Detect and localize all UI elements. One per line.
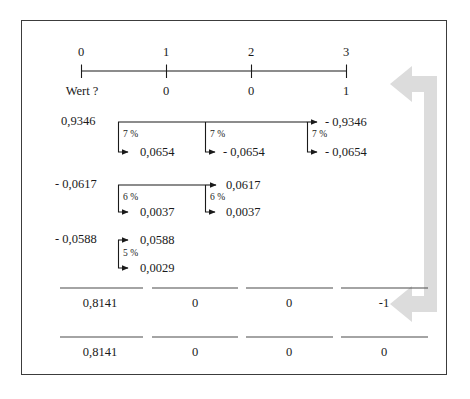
row3-rate-1: 5 % (123, 248, 138, 258)
row2-rate-2: 6 % (210, 192, 225, 202)
row1-start-value: 0,9346 (61, 115, 95, 128)
row1-branch-value-3: - 0,0654 (325, 146, 367, 159)
subtotal-cell-3: -1 (379, 297, 389, 310)
row3-branch-value-1: 0,0029 (140, 262, 174, 275)
axis-tick-label-2: 2 (248, 46, 254, 59)
axis-value-0: Wert ? (66, 85, 99, 98)
total-cell-0: 0,8141 (83, 346, 117, 359)
row1-spine-end-value: - 0,9346 (325, 116, 367, 129)
subtotal-cell-1: 0 (192, 297, 198, 310)
figure-root: 0 1 2 3 Wert ? 0 0 1 0,9346 7 % 7 % 7 % … (0, 0, 470, 399)
row1-rate-3: 7 % (312, 129, 327, 139)
axis-value-3: 1 (343, 85, 349, 98)
row2-start-value: - 0,0617 (55, 178, 97, 191)
row2-rate-1: 6 % (123, 192, 138, 202)
total-cell-2: 0 (286, 346, 292, 359)
row2-spine-end-value: 0,0617 (226, 179, 260, 192)
subtotal-cell-2: 0 (286, 297, 292, 310)
row3-top-value: 0,0588 (140, 234, 174, 247)
row2-branch-value-2: 0,0037 (226, 206, 260, 219)
subtotal-cell-0: 0,8141 (83, 297, 117, 310)
figure-frame (21, 20, 447, 375)
axis-tick-label-0: 0 (78, 46, 84, 59)
total-cell-3: 0 (381, 346, 387, 359)
axis-tick-label-3: 3 (343, 46, 349, 59)
axis-value-1: 0 (163, 85, 169, 98)
axis-tick-label-1: 1 (163, 46, 169, 59)
row1-rate-1: 7 % (123, 129, 138, 139)
row2-branch-value-1: 0,0037 (140, 206, 174, 219)
axis-value-2: 0 (248, 85, 254, 98)
row3-start-value: - 0,0588 (55, 233, 97, 246)
row1-rate-2: 7 % (210, 129, 225, 139)
row1-branch-value-1: 0,0654 (140, 146, 174, 159)
total-cell-1: 0 (192, 346, 198, 359)
row1-branch-value-2: - 0,0654 (223, 146, 265, 159)
